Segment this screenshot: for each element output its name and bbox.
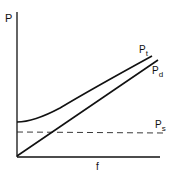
x-axis-label: f [96,161,99,172]
ps-label: Ps [155,119,166,133]
pt-label: Pt [139,44,149,58]
pd-label: Pd [152,65,163,79]
ps-line [17,132,164,133]
pt-curve [17,56,152,122]
power-frequency-diagram: P f Pt Pd Ps [0,0,175,175]
pd-line [17,60,158,156]
diagram-canvas: P f Pt Pd Ps [0,0,175,175]
y-axis-label: P [5,12,12,24]
